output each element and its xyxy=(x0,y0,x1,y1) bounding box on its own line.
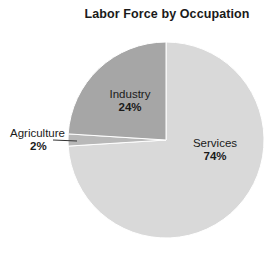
label-agriculture: Agriculture 2% xyxy=(8,127,56,153)
label-services: Services 74% xyxy=(183,137,247,163)
label-industry: Industry 24% xyxy=(100,88,160,114)
